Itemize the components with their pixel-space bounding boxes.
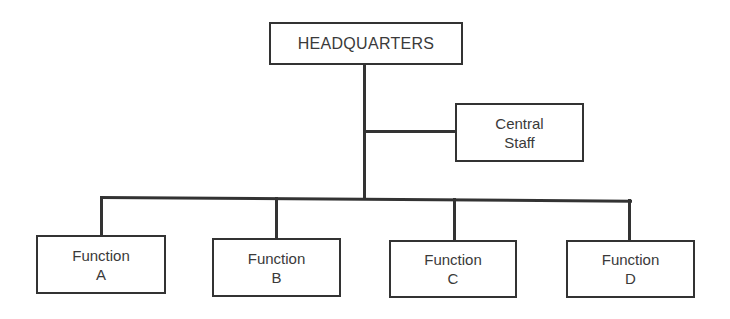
function-d-drop-line bbox=[628, 199, 631, 241]
function-d-line1: Function bbox=[602, 250, 660, 269]
function-d-box: Function D bbox=[566, 240, 695, 298]
function-b-box: Function B bbox=[212, 238, 341, 297]
function-b-drop-line bbox=[275, 197, 278, 239]
headquarters-box: HEADQUARTERS bbox=[269, 22, 463, 65]
function-d-line2: D bbox=[625, 269, 636, 288]
function-b-line1: Function bbox=[248, 249, 306, 268]
function-c-line2: C bbox=[448, 269, 459, 288]
staff-connector-line bbox=[363, 130, 456, 133]
function-b-line2: B bbox=[271, 268, 281, 287]
central-staff-box: Central Staff bbox=[455, 103, 584, 162]
central-staff-line2: Staff bbox=[504, 133, 535, 152]
function-c-line1: Function bbox=[424, 250, 482, 269]
function-a-line2: A bbox=[96, 265, 106, 284]
function-bus-line bbox=[100, 196, 632, 203]
central-staff-line1: Central bbox=[495, 114, 543, 133]
function-a-drop-line bbox=[100, 196, 103, 236]
headquarters-label: HEADQUARTERS bbox=[298, 34, 435, 53]
function-a-line1: Function bbox=[72, 246, 130, 265]
function-a-box: Function A bbox=[36, 235, 166, 294]
function-c-drop-line bbox=[453, 198, 456, 241]
function-c-box: Function C bbox=[389, 240, 517, 298]
